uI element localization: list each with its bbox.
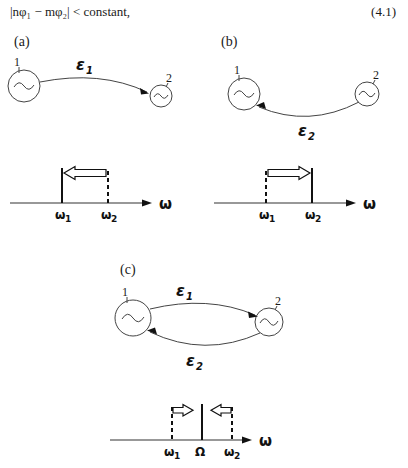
coupling-arrow-epsilon-2-b [256, 102, 359, 116]
coupling-label-epsilon-1-a-sub: 1 [86, 65, 93, 76]
coupling-arrow-epsilon-1-c [150, 303, 258, 318]
tick-label-omega2-b-sub: 2 [315, 214, 321, 224]
oscillator-2-c-number: 2 [275, 294, 281, 308]
oscillator-1-b-number: 1 [234, 63, 240, 77]
oscillator-2-c: 2 [255, 294, 283, 336]
tick-label-omega1-c-sub: 1 [174, 451, 180, 461]
tick-label-omega2-c-sub: 2 [234, 451, 240, 461]
panel-a-diagram: 1 2 ε 1 [0, 52, 200, 132]
panel-label-b: (b) [221, 34, 237, 50]
coupling-label-epsilon-2-b: ε [298, 121, 307, 140]
equation-expression: |nφ₁ − mφ₂| < constant, [10, 4, 130, 20]
omega-axis-arrowhead-b [346, 200, 356, 207]
equation-row: |nφ₁ − mφ₂| < constant, (4.1) [0, 0, 408, 26]
pull-arrow-right-c [173, 405, 193, 417]
oscillator-2-a: 2 [150, 71, 172, 107]
omega-axis-arrowhead-c [242, 437, 252, 444]
coupling-label-epsilon-2-b-sub: 2 [308, 131, 315, 142]
omega-axis-arrowhead-a [142, 200, 152, 207]
oscillator-2-a-number: 2 [166, 71, 172, 85]
panel-b-diagram: 1 2 ε 2 [204, 52, 408, 142]
panel-a-frequency-axis: ω 1 ω 2 ω [0, 155, 200, 225]
panel-c-diagram: 1 2 ε 1 ε 2 [100, 282, 310, 377]
oscillator-1-c: 1 [115, 285, 151, 336]
coupling-label-epsilon-1-c-sub: 1 [186, 291, 193, 302]
tick-label-omega1-b-sub: 1 [269, 214, 275, 224]
tick-label-omega1-a-sub: 1 [65, 214, 71, 224]
oscillator-2-b: 2 [355, 68, 379, 106]
tick-label-omega1-a: ω [55, 208, 65, 222]
panel-label-c: (c) [120, 262, 136, 278]
axis-name-omega-b: ω [363, 195, 376, 213]
tick-label-omega2-c: ω [224, 445, 234, 459]
panel-b-frequency-axis: ω 1 ω 2 ω [204, 155, 408, 225]
pull-arrow-left-c [211, 405, 231, 417]
tick-label-omega2-a: ω [101, 208, 111, 222]
oscillator-1-b: 1 [228, 63, 260, 110]
pull-arrow-left-a [64, 167, 106, 180]
tick-label-Omega-c: Ω [195, 445, 205, 459]
tick-label-omega1-b: ω [259, 208, 269, 222]
panel-label-a: (a) [14, 34, 30, 50]
oscillator-1-c-number: 1 [122, 285, 128, 299]
oscillator-1-a-number: 1 [14, 55, 20, 69]
tick-label-omega2-a-sub: 2 [111, 214, 117, 224]
coupling-arrow-epsilon-2-c [147, 328, 260, 346]
coupling-label-epsilon-1-a: ε [76, 55, 85, 74]
axis-name-omega-a: ω [159, 195, 172, 213]
tick-label-omega1-c: ω [164, 445, 174, 459]
coupling-arrow-epsilon-1-a [40, 78, 149, 95]
tick-label-omega2-b: ω [305, 208, 315, 222]
oscillator-2-b-number: 2 [373, 68, 379, 82]
pull-arrow-right-b [268, 167, 310, 180]
panel-c-frequency-axis: ω 1 Ω ω 2 ω [100, 392, 330, 468]
coupling-label-epsilon-1-c: ε [176, 281, 185, 300]
coupling-label-epsilon-2-c-sub: 2 [196, 361, 203, 372]
coupling-label-epsilon-2-c: ε [186, 351, 195, 370]
equation-number: (4.1) [371, 4, 396, 20]
axis-name-omega-c: ω [259, 432, 272, 450]
oscillator-1-a: 1 [8, 55, 40, 102]
